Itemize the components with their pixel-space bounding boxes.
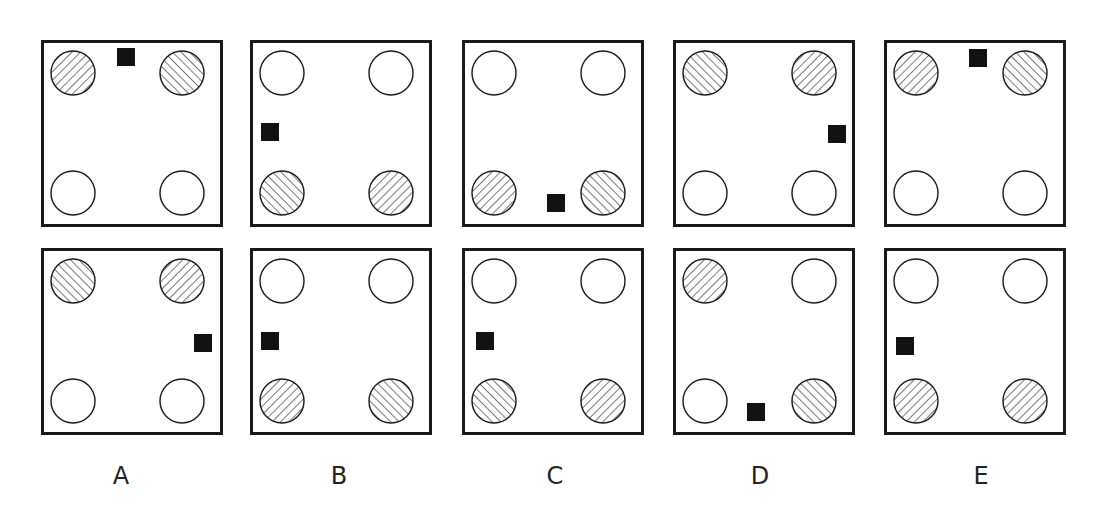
panel-d-bottom: [673, 248, 855, 435]
empty-circle-icon: [369, 51, 413, 95]
empty-circle-icon: [160, 171, 204, 215]
hatched-back-circle-icon: [581, 379, 625, 423]
black-square-icon: [261, 123, 279, 141]
option-label-c: C: [535, 462, 575, 490]
black-square-icon: [117, 48, 135, 66]
hatched-back-circle-icon: [160, 259, 204, 303]
black-square-icon: [194, 334, 212, 352]
empty-circle-icon: [581, 51, 625, 95]
empty-circle-icon: [683, 379, 727, 423]
empty-circle-icon: [51, 171, 95, 215]
empty-circle-icon: [51, 379, 95, 423]
hatched-back-circle-icon: [894, 51, 938, 95]
empty-circle-icon: [792, 171, 836, 215]
hatched-fwd-circle-icon: [683, 51, 727, 95]
hatched-back-circle-icon: [51, 51, 95, 95]
hatched-fwd-circle-icon: [51, 259, 95, 303]
black-square-icon: [261, 332, 279, 350]
black-square-icon: [828, 125, 846, 143]
option-label-a: A: [101, 462, 141, 490]
panel-d-top: [673, 40, 855, 227]
hatched-fwd-circle-icon: [369, 379, 413, 423]
empty-circle-icon: [581, 259, 625, 303]
hatched-back-circle-icon: [369, 171, 413, 215]
hatched-fwd-circle-icon: [260, 171, 304, 215]
black-square-icon: [476, 332, 494, 350]
empty-circle-icon: [894, 259, 938, 303]
panel-b-top: [250, 40, 432, 227]
black-square-icon: [896, 337, 914, 355]
empty-circle-icon: [472, 51, 516, 95]
empty-circle-icon: [160, 379, 204, 423]
panel-c-top: [462, 40, 644, 227]
hatched-back-circle-icon: [792, 51, 836, 95]
panel-a-bottom: [41, 248, 223, 435]
empty-circle-icon: [683, 171, 727, 215]
hatched-back-circle-icon: [472, 171, 516, 215]
hatched-fwd-circle-icon: [792, 379, 836, 423]
panel-e-bottom: [884, 248, 1066, 435]
hatched-fwd-circle-icon: [581, 171, 625, 215]
hatched-fwd-circle-icon: [1003, 51, 1047, 95]
panel-a-top: [41, 40, 223, 227]
empty-circle-icon: [472, 259, 516, 303]
option-label-e: E: [961, 462, 1001, 490]
hatched-back-circle-icon: [894, 379, 938, 423]
empty-circle-icon: [1003, 259, 1047, 303]
empty-circle-icon: [894, 171, 938, 215]
empty-circle-icon: [260, 259, 304, 303]
panel-b-bottom: [250, 248, 432, 435]
black-square-icon: [547, 194, 565, 212]
hatched-fwd-circle-icon: [160, 51, 204, 95]
empty-circle-icon: [1003, 171, 1047, 215]
empty-circle-icon: [260, 51, 304, 95]
option-label-d: D: [740, 462, 780, 490]
panel-c-bottom: [462, 248, 644, 435]
hatched-back-circle-icon: [260, 379, 304, 423]
black-square-icon: [969, 49, 987, 67]
panel-e-top: [884, 40, 1066, 227]
empty-circle-icon: [792, 259, 836, 303]
empty-circle-icon: [369, 259, 413, 303]
option-label-b: B: [319, 462, 359, 490]
hatched-back-circle-icon: [683, 259, 727, 303]
hatched-back-circle-icon: [1003, 379, 1047, 423]
black-square-icon: [747, 403, 765, 421]
hatched-fwd-circle-icon: [472, 379, 516, 423]
